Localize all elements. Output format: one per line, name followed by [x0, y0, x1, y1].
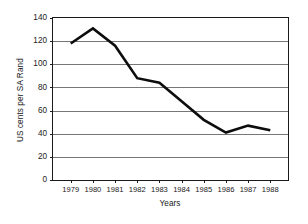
- x-tick-label: 1983: [151, 185, 168, 194]
- y-tick-label: 20: [38, 152, 48, 161]
- y-tick-label: 80: [38, 83, 48, 92]
- plot-area: 020406080100120140 197919801981198219831…: [0, 0, 308, 224]
- y-tick-label: 60: [38, 106, 48, 115]
- x-tick-label: 1988: [262, 185, 279, 194]
- gridlines: [50, 19, 288, 181]
- data-series-line: [71, 28, 271, 132]
- x-tick-label: 1984: [173, 185, 190, 194]
- y-axis-tick-labels: 020406080100120140: [33, 13, 47, 184]
- x-axis-tick-labels: 1979198019811982198319841985198619871988: [62, 185, 278, 194]
- y-tick-label: 100: [33, 59, 47, 68]
- x-tick-label: 1981: [107, 185, 124, 194]
- y-tick-label: 120: [33, 36, 47, 45]
- x-tick-label: 1982: [129, 185, 146, 194]
- y-tick-label: 140: [33, 13, 47, 22]
- line-chart: US cents per SA Rand Years 0204060801001…: [0, 0, 308, 224]
- x-tick-label: 1986: [217, 185, 234, 194]
- x-tick-label: 1980: [84, 185, 101, 194]
- y-tick-label: 0: [42, 175, 47, 184]
- y-tick-label: 40: [38, 129, 48, 138]
- x-tick-label: 1987: [240, 185, 257, 194]
- x-tick-label: 1985: [195, 185, 212, 194]
- x-tick-label: 1979: [62, 185, 79, 194]
- plot-frame: [53, 18, 289, 181]
